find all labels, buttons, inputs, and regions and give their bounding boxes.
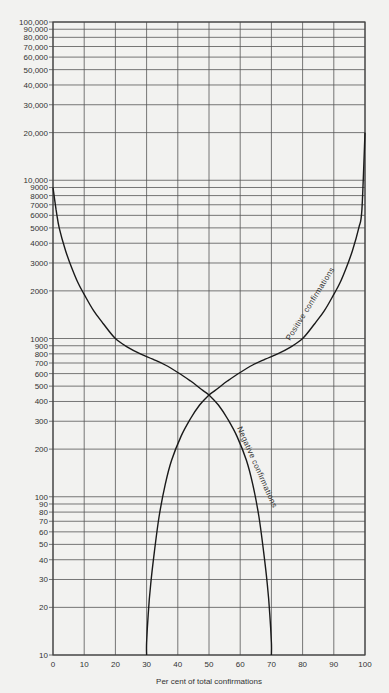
y-tick-label: 200 [35,445,49,454]
y-tick-label: 60 [39,528,48,537]
y-tick-label: 60,000 [24,53,49,62]
x-tick-label: 30 [142,660,151,669]
y-tick-label: 50,000 [24,66,49,75]
y-tick-label: 20,000 [24,129,49,138]
y-tick-label: 50 [39,540,48,549]
y-tick-label: 300 [35,417,49,426]
y-tick-label: 5000 [30,224,48,233]
x-tick-label: 60 [236,660,245,669]
y-tick-label: 700 [35,359,49,368]
y-tick-label: 20 [39,603,48,612]
x-tick-label: 50 [205,660,214,669]
y-tick-label: 800 [35,350,49,359]
x-tick-label: 90 [329,660,338,669]
x-tick-label: 20 [111,660,120,669]
y-tick-label: 40 [39,556,48,565]
positive-confirmations-curve [146,133,365,655]
y-tick-label: 30,000 [24,101,49,110]
grid [49,22,365,655]
x-tick-label: 0 [51,660,56,669]
y-tick-label: 70,000 [24,43,49,52]
x-tick-label: 70 [267,660,276,669]
y-tick-label: 40,000 [24,81,49,90]
y-tick-label: 600 [35,370,49,379]
y-tick-label: 80 [39,508,48,517]
x-tick-label: 40 [173,660,182,669]
y-tick-label: 30 [39,575,48,584]
log-chart: 1020304050607080901002003004005006007008… [0,0,389,693]
y-tick-label: 80,000 [24,33,49,42]
y-tick-label: 100,000 [19,18,48,27]
x-tick-label: 10 [80,660,89,669]
x-tick-label: 80 [298,660,307,669]
y-tick-label: 8000 [30,192,48,201]
y-tick-label: 400 [35,397,49,406]
y-tick-label: 1000 [30,335,48,344]
y-tick-label: 500 [35,382,49,391]
x-axis-label: Per cent of total confirmations [156,677,262,686]
y-tick-label: 2000 [30,287,48,296]
y-tick-label: 6000 [30,211,48,220]
x-tick-label: 100 [358,660,372,669]
y-tick-label: 3000 [30,259,48,268]
y-tick-label: 10 [39,651,48,660]
y-tick-label: 7000 [30,201,48,210]
y-tick-label: 100 [35,493,49,502]
y-tick-label: 70 [39,517,48,526]
x-axis-ticks: 0102030405060708090100 [51,660,372,669]
y-tick-label: 4000 [30,239,48,248]
y-axis-ticks: 1020304050607080901002003004005006007008… [19,18,48,660]
y-tick-label: 10,000 [24,176,49,185]
